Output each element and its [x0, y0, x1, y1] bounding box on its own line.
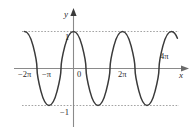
y-axis-label: y [64, 10, 68, 19]
x-tick-label-minus-2pi: −2π [18, 70, 31, 79]
y-tick-label-1: 1 [65, 33, 69, 42]
y-tick-label-minus-1: −1 [60, 108, 69, 117]
x-tick-label-minus-pi: −π [42, 70, 51, 79]
cosine-graph-figure: y x 1 −1 −2π −π 0 2π 4π [0, 0, 193, 140]
x-axis-label: x [179, 71, 183, 80]
y-axis-arrow-icon [70, 8, 76, 16]
x-tick-label-4pi: 4π [160, 52, 169, 61]
x-tick-label-zero: 0 [77, 70, 81, 79]
x-tick-label-2pi: 2π [118, 70, 127, 79]
